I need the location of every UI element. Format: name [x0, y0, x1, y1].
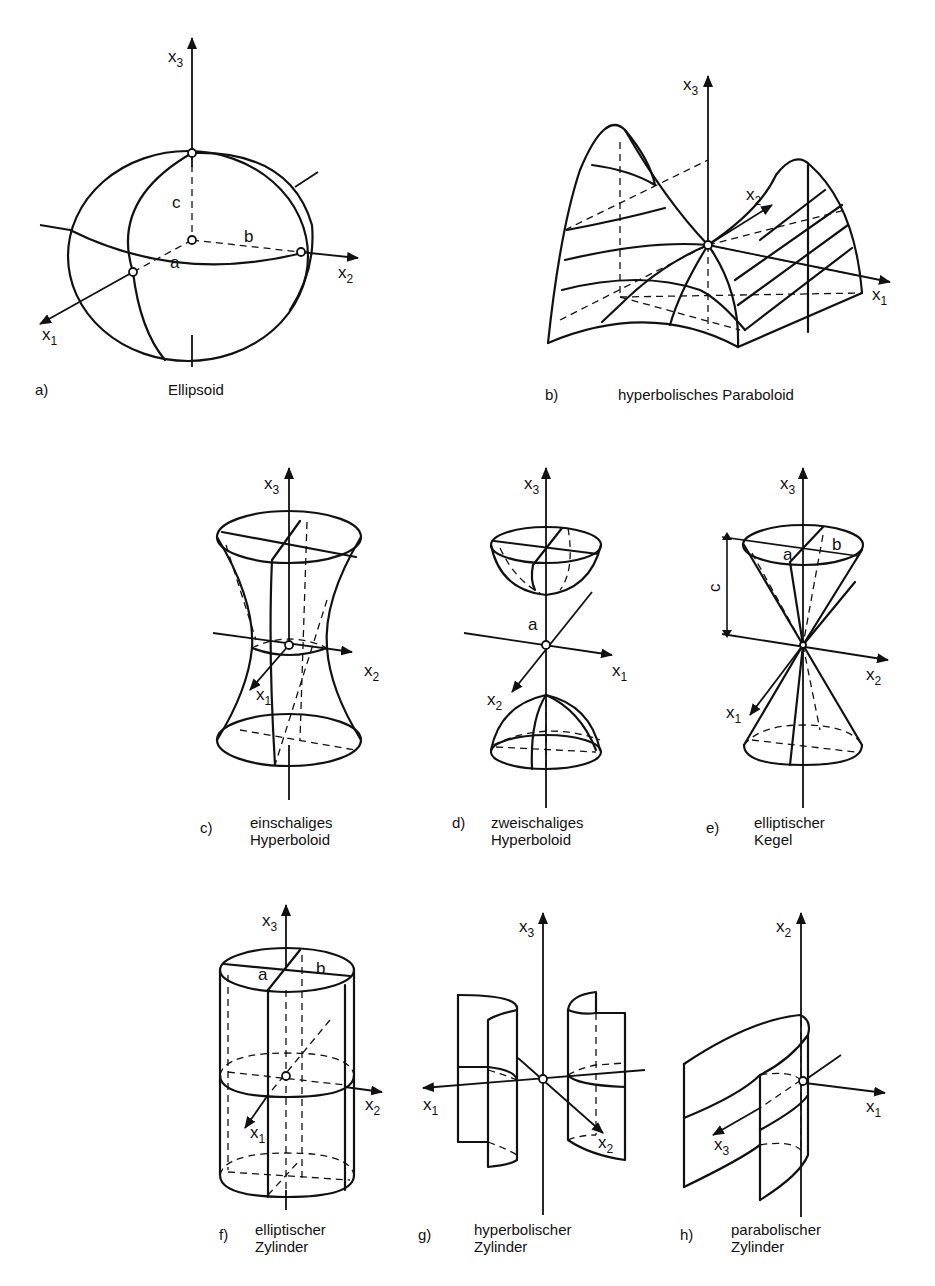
x1-label: x1 — [726, 703, 742, 726]
figure-caption: Ellipsoid — [168, 381, 224, 398]
figure-caption-line1: elliptischer — [754, 814, 825, 831]
figure-letter: c) — [200, 819, 213, 836]
x1-label: x1 — [256, 685, 272, 708]
x2-label: x2 — [746, 185, 762, 208]
b-label: b — [244, 227, 253, 246]
figure-d-two-sheet-hyperboloid: x3 a x1 x2 d) zweischaliges Hyperboloid — [452, 468, 628, 848]
x1-label: x1 — [42, 325, 58, 348]
figure-caption-line1: parabolischer — [731, 1221, 821, 1238]
x2-label: x2 — [338, 263, 354, 286]
figure-letter: h) — [680, 1226, 693, 1243]
figure-caption-line2: Kegel — [754, 831, 792, 848]
ellipsoid-outline — [68, 151, 308, 361]
figure-caption: hyperbolisches Paraboloid — [618, 386, 794, 403]
figure-caption-line2: Zylinder — [255, 1238, 308, 1255]
x3-label: x3 — [714, 1135, 730, 1158]
c-label: c — [172, 193, 181, 212]
figure-caption-line1: einschaliges — [250, 814, 333, 831]
x2-axis-back — [40, 225, 70, 230]
a-label: a — [528, 615, 538, 634]
figure-letter: f) — [219, 1226, 228, 1243]
x3-label: x3 — [262, 911, 278, 934]
c-label: c — [705, 583, 724, 592]
a-label: a — [258, 965, 268, 984]
x2-label: x2 — [365, 1095, 381, 1118]
x1-label: x1 — [423, 1095, 439, 1118]
figure-a-ellipsoid: x3 x2 x1 c b a a) Ellipsoid — [35, 38, 358, 398]
x3-label: x3 — [780, 474, 796, 497]
x3-label: x3 — [524, 474, 540, 497]
paraboloid-front-edge — [548, 322, 738, 347]
figure-b-hyperbolic-paraboloid: x3 x2 x1 b) hyperbolisches Paraboloid — [545, 75, 890, 403]
figure-g-hyperbolic-cylinder: x3 x1 x2 g) hyperbolischer Zylinder — [418, 913, 645, 1255]
figure-letter: b) — [545, 386, 558, 403]
x2-label: x2 — [866, 665, 882, 688]
x1-label: x1 — [872, 285, 888, 308]
figure-f-elliptic-cylinder: x3 a b x2 x1 f) elliptischer Zylinder — [219, 905, 382, 1255]
x3-label: x3 — [683, 75, 699, 98]
x2-label: x2 — [598, 1133, 614, 1156]
x1-label: x1 — [250, 1123, 266, 1146]
figure-letter: d) — [452, 814, 465, 831]
figure-letter: g) — [418, 1226, 431, 1243]
figure-caption-line1: elliptischer — [255, 1221, 326, 1238]
a-label: a — [783, 545, 793, 564]
a-label: a — [170, 253, 180, 272]
figure-caption-line2: Hyperboloid — [250, 831, 330, 848]
x3-label: x3 — [168, 47, 184, 70]
figure-caption-line2: Hyperboloid — [491, 831, 571, 848]
figure-e-elliptic-cone: x3 a b c x2 x1 e) elliptischer Kegel — [705, 468, 888, 848]
b-label: b — [316, 959, 325, 978]
figure-h-parabolic-cylinder: x2 x1 x3 h) parabolischer Zylinder — [680, 913, 885, 1255]
x1-axis-back — [295, 172, 318, 187]
ellipsoid-equator — [70, 230, 306, 264]
paraboloid-left-cap — [592, 130, 655, 185]
x1-axis — [40, 272, 133, 324]
x1-label: x1 — [612, 661, 628, 684]
figure-caption-line1: hyperbolischer — [474, 1221, 572, 1238]
x2-label: x2 — [487, 690, 503, 713]
ellipsoid-meridian — [128, 153, 192, 360]
figure-letter: e) — [706, 819, 719, 836]
x1-label: x1 — [866, 1097, 882, 1120]
paraboloid-left-ridge — [548, 125, 708, 343]
figure-caption-line2: Zylinder — [474, 1238, 527, 1255]
figure-c-one-sheet-hyperboloid: x3 x2 x1 c) einschaliges Hyperboloid — [200, 468, 380, 848]
x3-label: x3 — [264, 474, 280, 497]
paraboloid-right-ridge — [708, 159, 862, 293]
x3-label: x3 — [519, 917, 535, 940]
x2-label: x2 — [364, 661, 380, 684]
x2-label: x2 — [776, 917, 792, 940]
b-label: b — [832, 535, 841, 554]
figure-caption-line1: zweischaliges — [491, 814, 584, 831]
figure-caption-line2: Zylinder — [731, 1238, 784, 1255]
figure-letter: a) — [35, 381, 48, 398]
